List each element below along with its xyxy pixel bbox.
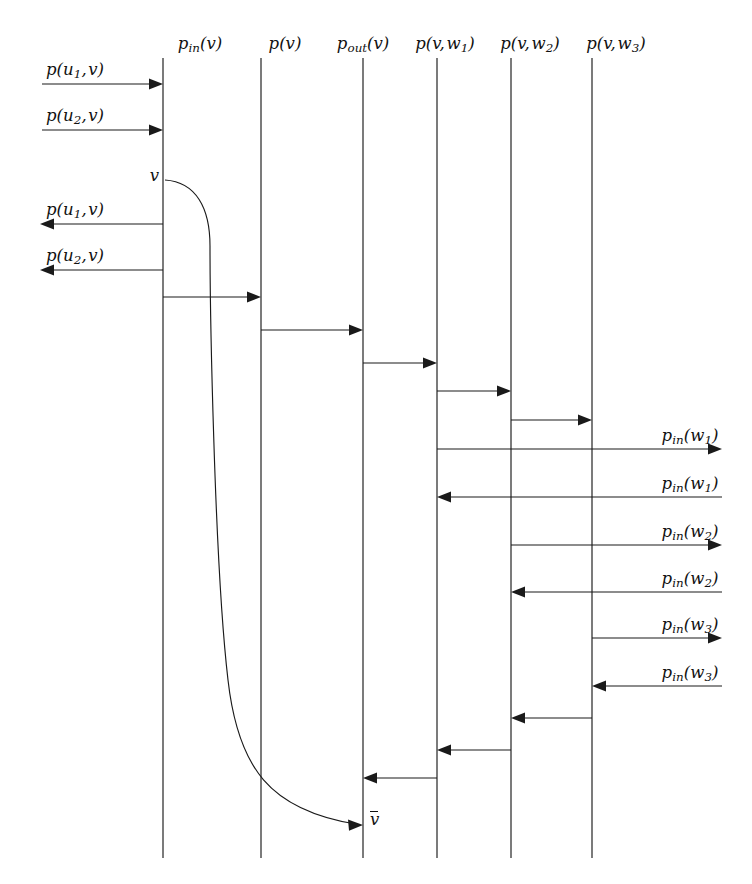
header-p-in-v: pin(v) bbox=[178, 36, 222, 55]
message-arrow-m7 bbox=[363, 357, 437, 368]
message-arrow-m9 bbox=[511, 414, 592, 425]
message-label-m12: pin(w2) bbox=[662, 524, 719, 543]
header-p-v-w3: p(v, w3) bbox=[586, 36, 646, 55]
activation-start-label: v bbox=[150, 168, 159, 185]
message-label-m4: p(u2, v) bbox=[46, 248, 104, 267]
activation-end-label: v bbox=[370, 812, 379, 829]
lifelines-group bbox=[163, 58, 592, 858]
message-label-m10: pin(w1) bbox=[662, 428, 719, 447]
message-arrow-m5 bbox=[163, 291, 261, 302]
message-label-m11: pin(w1) bbox=[662, 476, 719, 495]
message-arrow-m8 bbox=[437, 385, 511, 396]
sequence-diagram: pin(v) p(v) pout(v) p(v, w1) p(v, w2) p(… bbox=[0, 0, 752, 884]
header-p-v: p(v) bbox=[269, 36, 302, 53]
message-arrow-m16 bbox=[511, 712, 592, 723]
message-label-m2: p(u2, v) bbox=[46, 108, 104, 127]
message-label-m3: p(u1, v) bbox=[46, 202, 104, 221]
activation-curve bbox=[165, 180, 363, 831]
message-label-m13: pin(w2) bbox=[662, 571, 719, 590]
message-arrow-m6 bbox=[261, 324, 363, 335]
diagram-canvas bbox=[0, 0, 752, 884]
header-p-v-w1: p(v, w1) bbox=[415, 36, 475, 55]
message-arrow-m18 bbox=[363, 772, 437, 783]
message-label-m1: p(u1, v) bbox=[46, 62, 104, 81]
header-p-out-v: pout(v) bbox=[337, 36, 390, 55]
message-label-m14: pin(w3) bbox=[662, 617, 719, 636]
message-arrow-m17 bbox=[437, 744, 511, 755]
header-p-v-w2: p(v, w2) bbox=[500, 36, 560, 55]
message-label-m15: pin(w3) bbox=[662, 665, 719, 684]
